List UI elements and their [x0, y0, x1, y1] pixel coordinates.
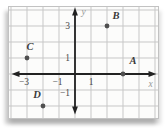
- x-axis-label: x: [147, 79, 153, 89]
- point-dot-A: [121, 72, 126, 77]
- point-dot-B: [105, 24, 110, 29]
- coordinate-plane-figure: −3−1131−1xyABCD: [8, 6, 159, 119]
- x-tick-label: 1: [89, 77, 94, 87]
- coordinate-plane-svg: −3−1131−1xyABCD: [8, 6, 159, 119]
- x-tick-label: −3: [19, 77, 29, 87]
- point-label-D: D: [32, 89, 41, 100]
- point-label-C: C: [26, 41, 34, 52]
- y-axis-label: y: [80, 7, 86, 17]
- point-dot-C: [25, 56, 30, 61]
- y-tick-label: 1: [65, 53, 70, 63]
- point-dot-D: [41, 104, 46, 109]
- y-axis-bottom-arrow: [72, 107, 78, 115]
- y-axis-top-arrow: [72, 8, 78, 16]
- y-tick-label: −1: [60, 88, 70, 98]
- point-label-B: B: [111, 10, 119, 21]
- y-tick-label: 3: [65, 21, 70, 31]
- point-label-A: A: [128, 55, 136, 66]
- x-tick-label: −1: [52, 77, 62, 87]
